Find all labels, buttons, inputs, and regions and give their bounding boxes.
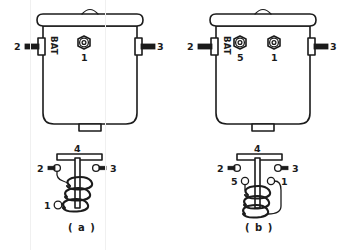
crossbar-label-b: 4 (254, 143, 261, 154)
terminal-node-3a (93, 165, 100, 172)
schematic-terminal-label-1a: 1 (44, 200, 51, 211)
core-b (255, 158, 260, 208)
left-terminal-blade-b (198, 44, 212, 49)
hex-nut-bore-5b (238, 41, 242, 45)
schematic-terminal-1-a (54, 201, 63, 209)
terminal-lead-1b (268, 181, 281, 214)
hex-terminal-label-1b: 1 (271, 52, 278, 63)
terminal-node-1a (54, 201, 62, 209)
crossbar-label-a: 4 (74, 143, 81, 154)
terminal-stub-3b (281, 166, 288, 169)
schematic-terminal-label-5b: 5 (231, 176, 238, 187)
figure-canvas: 2 3 BAT 1 4 (0, 0, 340, 250)
mounting-tab-b (252, 124, 274, 131)
hex-terminal-label-5b: 5 (237, 52, 244, 63)
terminal-node-3b (275, 165, 282, 172)
schematic-terminal-3-a (93, 165, 106, 172)
schematic-terminal-label-3a: 3 (110, 163, 117, 174)
scan-artifact-line (30, 0, 31, 250)
right-terminal-label-b: 3 (330, 41, 337, 52)
schematic-terminal-2-b (228, 165, 240, 172)
scan-artifact-line (105, 0, 106, 250)
hex-nut-bore-1b (272, 41, 276, 45)
schematic-terminal-label-1b: 1 (281, 176, 288, 187)
terminal-node-5b (241, 177, 248, 184)
bat-label-a: BAT (49, 36, 59, 55)
left-terminal-label-a: 2 (14, 41, 21, 52)
hex-terminal-1-b (268, 36, 280, 49)
right-terminal-label-a: 3 (157, 41, 164, 52)
hex-terminal-5-b (234, 36, 246, 49)
right-terminal-blade-b (314, 44, 328, 49)
ignition-coil-figure: 2 3 BAT 1 4 (0, 0, 340, 250)
hex-nut-bore-1a (82, 41, 86, 45)
coil-cap-b (210, 14, 316, 26)
left-terminal-blade-a (25, 44, 39, 49)
schematic-terminal-label-3b: 3 (292, 163, 299, 174)
right-terminal-blade-a (141, 44, 155, 49)
mounting-tab-a (79, 124, 101, 131)
panel-b-case-view: 2 3 BAT 5 1 (187, 10, 337, 132)
hex-terminal-1-a (78, 36, 90, 49)
schematic-terminal-3-b (275, 165, 288, 172)
coil-cap-a (37, 14, 143, 26)
panel-a-case-view: 2 3 BAT 1 (14, 10, 164, 132)
terminal-node-1b (267, 177, 274, 184)
left-terminal-label-b: 2 (187, 41, 194, 52)
schematic-terminal-label-2b: 2 (217, 163, 224, 174)
panel-caption-a: ( a ) (68, 222, 96, 233)
terminal-stub-2b (228, 166, 235, 169)
terminal-stub-2a (48, 166, 55, 169)
schematic-terminal-label-2a: 2 (37, 163, 44, 174)
hex-terminal-label-1a: 1 (81, 52, 88, 63)
bat-label-b: BAT (222, 36, 232, 55)
panel-caption-b: ( b ) (245, 222, 273, 233)
panel-b-schematic: 4 2 3 5 (217, 143, 299, 233)
